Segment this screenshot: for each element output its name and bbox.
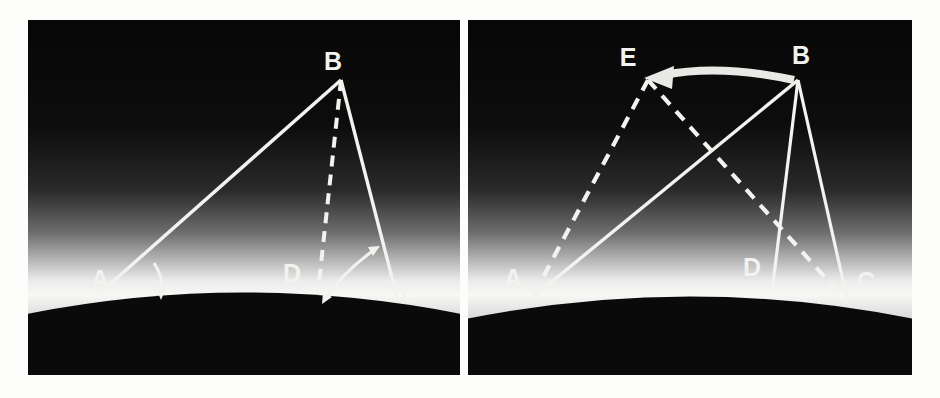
point-label-D: D [743,253,761,281]
left-diagram-panel: A B C D [28,20,460,375]
point-label-C: C [857,267,875,295]
right-diagram-panel: A B C D E [468,20,912,375]
point-label-C: C [401,280,419,308]
planet-limb [468,297,912,376]
point-label-E: E [620,43,637,71]
point-label-A: A [504,264,522,292]
point-label-A: A [91,265,109,293]
left-diagram-svg: A B C D [28,20,460,375]
point-label-B: B [792,41,810,69]
right-diagram-svg: A B C D E [468,20,912,375]
point-label-D: D [283,259,301,287]
planet-limb [28,293,460,376]
figure-container: A B C D [0,0,940,398]
point-label-B: B [324,47,342,75]
